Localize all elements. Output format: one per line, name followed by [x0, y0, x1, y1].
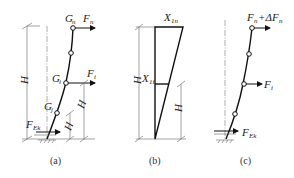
panel-b: H X 1n X 1i H (b): [131, 11, 186, 167]
label-fi: F: [263, 78, 271, 90]
svg-text:n: n: [90, 18, 94, 26]
mass-node-j: [55, 111, 60, 116]
mass-node-n: [71, 26, 76, 31]
caption-b: (b): [149, 155, 161, 167]
svg-text:1n: 1n: [171, 17, 179, 25]
svg-text:n: n: [72, 18, 76, 26]
panel-a: H G n F n G i F i G j F Ek H: [18, 12, 96, 167]
mass-node-n: [250, 26, 255, 31]
label-hi: H: [74, 97, 89, 111]
label-delta-fn: +ΔF: [258, 11, 279, 23]
label-hi: H: [172, 103, 184, 113]
svg-text:Ek: Ek: [248, 132, 257, 140]
caption-c: (c): [240, 155, 251, 167]
mass-node-i: [242, 82, 247, 87]
label-fn: F: [246, 11, 254, 23]
mass-node-j: [233, 112, 238, 117]
label-fi: F: [86, 67, 94, 79]
svg-text:i: i: [59, 78, 61, 86]
label-fn: F: [82, 12, 90, 24]
mass-node: [69, 51, 74, 56]
seismic-load-diagram: H G n F n G i F i G j F Ek H: [0, 0, 294, 178]
svg-text:n: n: [279, 17, 283, 25]
svg-text:Ek: Ek: [32, 124, 41, 132]
svg-text:1i: 1i: [149, 78, 155, 86]
label-h: H: [18, 75, 30, 85]
label-fek: F: [25, 118, 33, 130]
label-hj: H: [61, 119, 76, 133]
svg-text:i: i: [271, 84, 273, 92]
mass-node: [247, 52, 252, 57]
caption-a: (a): [50, 155, 61, 167]
svg-text:i: i: [94, 73, 96, 81]
mass-node-i: [64, 81, 69, 86]
mode-shape-triangle: [155, 27, 183, 139]
svg-text:j: j: [50, 106, 53, 114]
panel-c: F n +ΔF n F i F Ek (c): [214, 11, 283, 167]
label-fek: F: [241, 126, 249, 138]
